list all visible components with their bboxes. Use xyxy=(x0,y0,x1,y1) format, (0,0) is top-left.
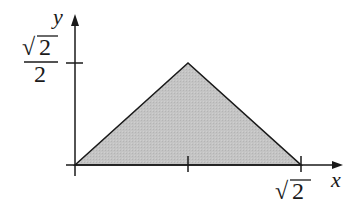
radical-sign: √ xyxy=(22,34,36,60)
sqrt-value: 2 xyxy=(292,178,304,204)
triangle-diagram: y x √ 2 2 √ 2 xyxy=(0,0,360,213)
denominator: 2 xyxy=(34,61,46,87)
y-axis-label: y xyxy=(51,4,63,29)
shaded-triangle-region xyxy=(75,63,301,165)
x-tick-label: √ 2 xyxy=(275,178,311,204)
radical-sign: √ xyxy=(275,178,289,204)
y-tick-label: √ 2 2 xyxy=(22,34,58,87)
x-axis-label: x xyxy=(330,167,341,192)
numerator: 2 xyxy=(39,34,51,60)
y-axis-arrow-icon xyxy=(71,14,79,26)
